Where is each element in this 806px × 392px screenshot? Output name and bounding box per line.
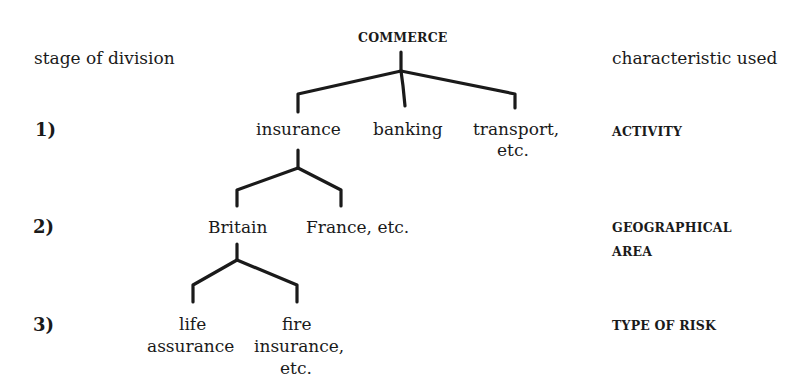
stage-of-division-label: stage of division: [34, 48, 175, 68]
node-fire: fire: [282, 314, 312, 334]
node-commerce: COMMERCE: [358, 28, 448, 48]
node-transport: transport,: [473, 119, 559, 139]
node-banking: banking: [373, 119, 443, 139]
edge-commerce-transport: [401, 71, 515, 108]
node-insurance: insurance: [256, 119, 341, 139]
stage-number-1: 1): [35, 120, 56, 140]
stage-number-3: 3): [33, 315, 54, 335]
node-fire-insurance: insurance,: [254, 336, 344, 356]
characteristic-activity: ACTIVITY: [612, 122, 682, 142]
node-fire-etc: etc.: [280, 358, 312, 378]
edge-britain-life: [193, 260, 237, 302]
characteristic-used-label: characteristic used: [612, 48, 777, 68]
node-life: life: [179, 314, 206, 334]
stage-number-2: 2): [33, 217, 54, 237]
characteristic-geographical: GEOGRAPHICAL: [612, 218, 732, 238]
edge-commerce-banking: [401, 71, 405, 106]
node-transport-etc: etc.: [497, 140, 529, 160]
edge-insurance-britain: [237, 168, 298, 206]
node-france: France, etc.: [306, 217, 409, 237]
node-britain: Britain: [208, 217, 267, 237]
edge-commerce-insurance: [298, 71, 401, 112]
characteristic-area: AREA: [612, 242, 652, 262]
edge-insurance-france: [298, 168, 341, 206]
characteristic-type-of-risk: TYPE OF RISK: [612, 316, 716, 336]
node-life-assurance: assurance: [147, 336, 234, 356]
edge-britain-fire: [237, 260, 297, 302]
